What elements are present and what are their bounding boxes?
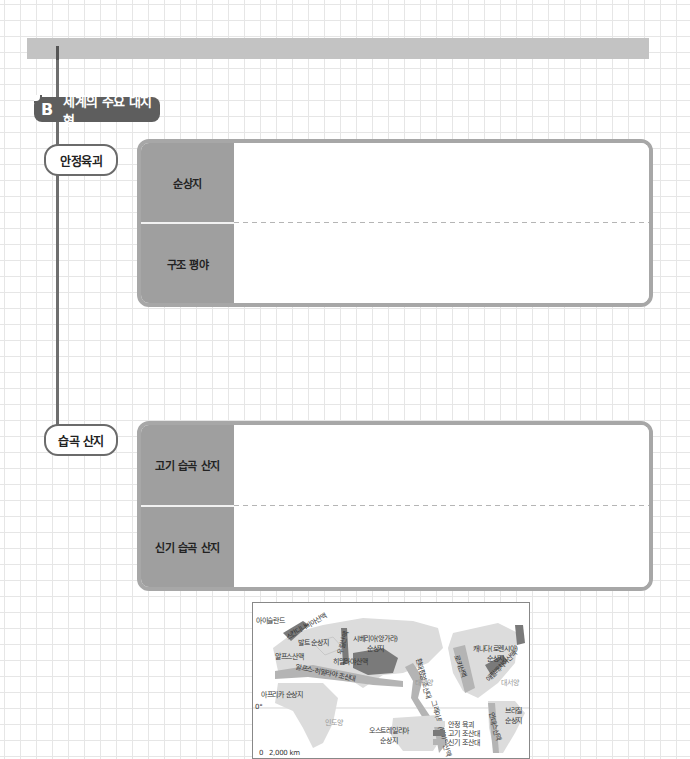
label-himalaya: 히말라야산맥 [333,656,367,666]
label-pacific: 태평양 [415,677,433,687]
row-old-fold-mountains: 고기 습곡 산지 [141,425,649,505]
answer-area-young-fold[interactable] [234,507,649,587]
group-label-fold-mountains: 습곡 산지 [44,424,118,456]
row-structural-plain: 구조 평야 [141,224,649,303]
legend-swatch [433,721,445,727]
answer-area-old-fold[interactable] [234,425,649,505]
answer-area-structural-plain[interactable] [234,224,649,303]
row-label: 고기 습곡 산지 [141,425,234,505]
label-brazil: 브라질 순상지 [505,705,522,725]
row-label: 순상지 [141,143,234,222]
section-letter: B [41,100,53,119]
fold-mountains-card: 고기 습곡 산지 신기 습곡 산지 [137,421,653,591]
stable-landmass-card: 순상지 구조 평야 [137,139,653,307]
map-scale: 0 2,000 km [259,749,300,757]
label-indian: 인도양 [325,717,343,727]
legend-swatch [433,739,445,745]
label-baltic: 발트 순상지 [298,637,328,647]
label-atlantic: 대서양 [501,677,519,687]
row-label: 신기 습곡 산지 [141,507,234,587]
legend-swatch [433,730,445,736]
answer-area-shield[interactable] [234,143,649,222]
legend-item-young-orogenic: 신기 조산대 [433,737,480,746]
row-shield: 순상지 [141,143,649,222]
group-label-stable-landmass: 안정육괴 [44,144,118,176]
section-title-badge: B 세계의 주요 대지형 [34,97,160,122]
row-young-fold-mountains: 신기 습곡 산지 [141,507,649,587]
label-alps: 알프스산맥 [275,651,304,661]
header-bar [27,38,649,59]
world-landforms-map: 아이슬란드 스칸디나비아산맥 발트 순상지 우랄산맥 시베리아(앙가라) 순상지… [252,602,530,759]
label-siberia: 시베리아(앙가라) 순상지 [353,633,398,653]
section-title: 세계의 주요 대지형 [63,91,160,129]
map-legend: 안정 육괴 고기 조산대 신기 조산대 [433,719,480,746]
label-australia: 오스트레일리아 순상지 [369,725,409,745]
label-africa: 아프리카 순상지 [261,689,303,699]
label-iceland: 아이슬란드 [256,615,285,625]
label-equator: 0° [255,703,262,711]
timeline-cap [56,46,59,60]
row-label: 구조 평야 [141,224,234,303]
